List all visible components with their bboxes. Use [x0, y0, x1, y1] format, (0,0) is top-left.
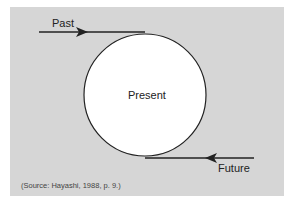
source-caption: (Source: Hayashi, 1988, p. 9.) [21, 181, 121, 190]
past-label: Past [52, 17, 74, 29]
future-label: Future [218, 162, 250, 174]
present-label: Present [128, 89, 166, 101]
